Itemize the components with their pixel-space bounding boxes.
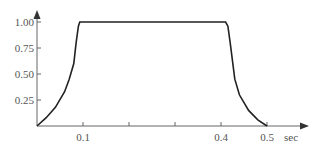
x-tick-label: 0.5 bbox=[260, 131, 274, 143]
x-ticks: 0.10.40.5 bbox=[76, 122, 274, 143]
chart: 0.10.40.5 0.250.500.751.00 sec bbox=[0, 0, 317, 151]
x-tick-label: 0.4 bbox=[214, 131, 228, 143]
x-axis-label: sec bbox=[284, 131, 298, 143]
y-tick-label: 0.75 bbox=[15, 42, 35, 54]
x-axis-arrow-icon bbox=[300, 123, 309, 130]
x-tick-label: 0.1 bbox=[76, 131, 90, 143]
pulse-curve bbox=[37, 22, 267, 126]
y-tick-label: 1.00 bbox=[15, 16, 35, 28]
y-axis-arrow-icon bbox=[34, 10, 41, 19]
y-tick-label: 0.50 bbox=[15, 68, 35, 80]
y-tick-label: 0.25 bbox=[15, 94, 35, 106]
